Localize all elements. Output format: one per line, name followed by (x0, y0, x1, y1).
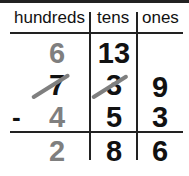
subtrahend-ones: 3 (142, 102, 178, 132)
subtrahend-tens: 5 (96, 102, 132, 132)
difference-hundreds: 2 (39, 136, 75, 166)
sum-line (10, 131, 183, 133)
minuend-ones: 9 (142, 72, 178, 102)
header-tens: tens (97, 8, 129, 28)
difference-ones: 6 (142, 136, 178, 166)
divider-tens-ones (136, 12, 138, 160)
regroup-hundreds: 6 (39, 38, 75, 68)
divider-hundreds-tens (89, 12, 91, 160)
regroup-tens: 13 (94, 38, 134, 68)
header-underline (10, 32, 183, 34)
subtrahend-hundreds: 4 (39, 102, 75, 132)
difference-tens: 8 (96, 136, 132, 166)
minus-sign: - (12, 102, 21, 132)
top-border (0, 0, 189, 3)
header-ones: ones (142, 8, 179, 28)
header-hundreds: hundreds (14, 8, 85, 28)
